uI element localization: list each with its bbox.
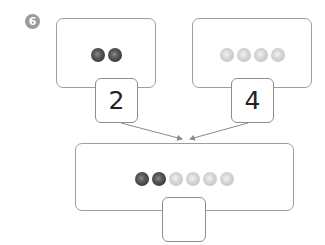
dark-ball-icon [152, 172, 166, 186]
light-ball-icon [220, 172, 234, 186]
combined-ball-row [76, 172, 293, 186]
arrow-right-icon [190, 123, 248, 139]
total-answer-box[interactable] [162, 197, 206, 242]
light-ball-icon [186, 172, 200, 186]
dark-ball-icon [135, 172, 149, 186]
light-ball-icon [169, 172, 183, 186]
light-ball-icon [203, 172, 217, 186]
arrow-left-icon [121, 123, 182, 139]
